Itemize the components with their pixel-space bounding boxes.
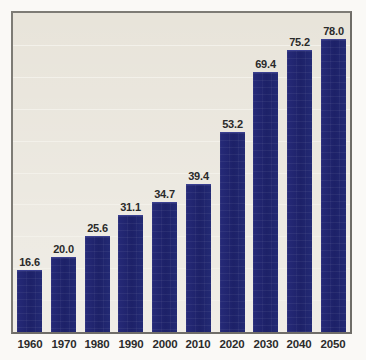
- bar-group: 20.0: [51, 13, 76, 332]
- bar[interactable]: [186, 184, 211, 332]
- bar[interactable]: [17, 270, 42, 332]
- bar-value-label: 53.2: [222, 118, 243, 130]
- bar[interactable]: [51, 257, 76, 332]
- bar-value-label: 16.6: [19, 256, 40, 268]
- bar-group: 78.0: [321, 13, 346, 332]
- x-axis-labels: 1960197019801990200020102020203020402050: [11, 338, 352, 358]
- bar-value-label: 75.2: [289, 36, 310, 48]
- bar-value-label: 25.6: [87, 222, 108, 234]
- bar[interactable]: [220, 132, 245, 332]
- bar[interactable]: [253, 72, 278, 332]
- bar-group: 25.6: [85, 13, 110, 332]
- bar-value-label: 78.0: [323, 25, 344, 37]
- bars-layer: 16.620.025.631.134.739.453.269.475.278.0: [13, 13, 350, 332]
- bar[interactable]: [152, 202, 177, 332]
- bar-group: 16.6: [17, 13, 42, 332]
- bar-value-label: 31.1: [120, 201, 141, 213]
- bar-group: 31.1: [118, 13, 143, 332]
- bar-value-label: 20.0: [53, 243, 74, 255]
- bar-chart-figure: 16.620.025.631.134.739.453.269.475.278.0…: [0, 0, 366, 360]
- bar-value-label: 34.7: [154, 188, 175, 200]
- bar-group: 69.4: [253, 13, 278, 332]
- bar[interactable]: [118, 215, 143, 332]
- bar[interactable]: [287, 50, 312, 332]
- bar-group: 53.2: [220, 13, 245, 332]
- bar-group: 39.4: [186, 13, 211, 332]
- bar[interactable]: [85, 236, 110, 332]
- bar-value-label: 39.4: [188, 170, 209, 182]
- bar-group: 75.2: [287, 13, 312, 332]
- x-axis-tick-label: 2050: [313, 338, 353, 350]
- bar-value-label: 69.4: [255, 58, 276, 70]
- plot-frame: 16.620.025.631.134.739.453.269.475.278.0: [11, 11, 352, 334]
- bar-group: 34.7: [152, 13, 177, 332]
- bar[interactable]: [321, 39, 346, 332]
- plot-area: 16.620.025.631.134.739.453.269.475.278.0: [13, 13, 350, 332]
